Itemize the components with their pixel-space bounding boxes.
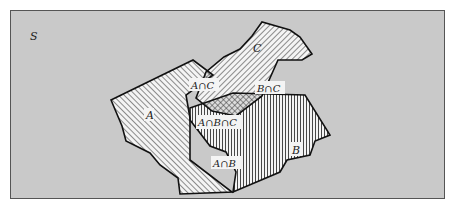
svg-text:A∩B∩C: A∩B∩C (197, 117, 237, 128)
b-intersect-c-label: B∩C (255, 81, 285, 94)
a-intersect-b-label: A∩B (211, 156, 241, 169)
set-c-label: C (253, 42, 262, 55)
svg-text:A: A (145, 109, 154, 122)
universe-label: S (30, 30, 38, 43)
set-a-label: A (144, 108, 154, 122)
svg-text:B: B (291, 144, 300, 157)
venn-diagram: S A B C A∩C B∩C A∩B A∩B∩C (0, 0, 450, 219)
svg-text:B∩C: B∩C (256, 83, 281, 94)
svg-text:A∩C: A∩C (190, 80, 215, 91)
svg-text:A∩B: A∩B (212, 158, 236, 169)
svg-text:C: C (253, 42, 262, 55)
set-b-label: B (290, 142, 302, 157)
a-intersect-c-label: A∩C (189, 78, 219, 91)
a-b-c-intersection-label: A∩B∩C (196, 115, 242, 129)
